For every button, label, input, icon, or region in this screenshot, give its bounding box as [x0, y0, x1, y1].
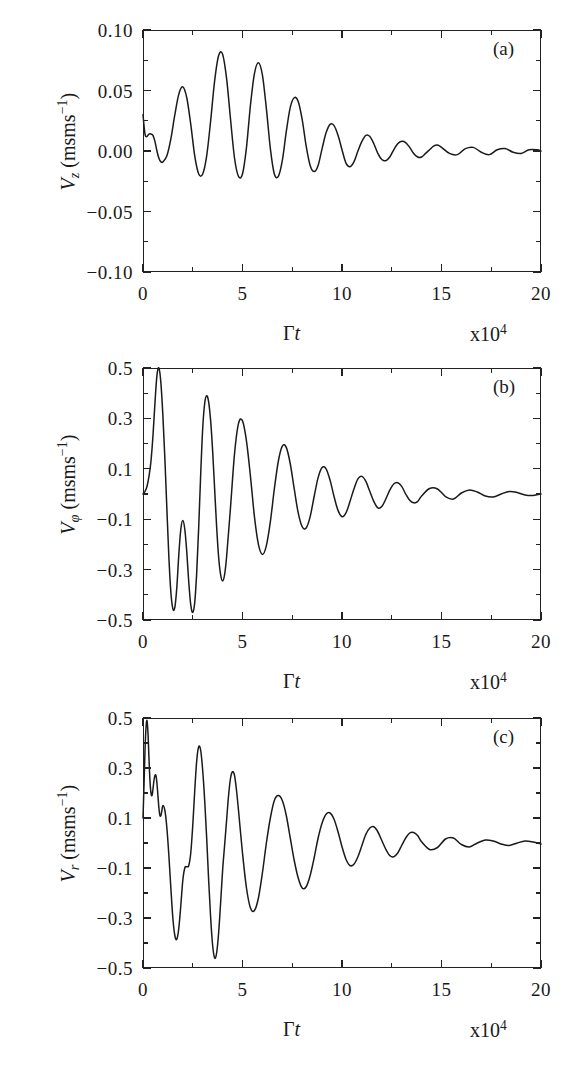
- ytick-major-right-b-2: [533, 468, 541, 469]
- y-symbol-b: V: [57, 522, 79, 534]
- ytick-minor-right-a-2: [536, 181, 541, 182]
- ytick-major-a-4: [143, 271, 151, 272]
- xtick-major-a-0: [142, 264, 143, 272]
- xtick-minor-top-c-2: [391, 718, 392, 723]
- ytick-major-right-c-1: [533, 767, 541, 768]
- xtick-minor-top-c-3: [491, 718, 492, 723]
- ytick-minor-right-b-2: [536, 493, 541, 494]
- data-curve-c: [143, 720, 541, 958]
- ytick-major-right-c-4: [533, 917, 541, 918]
- figure-container: 0.100.050.00−0.05−0.10 05101520 Vz (msms…: [0, 0, 578, 1075]
- ytick-major-b-1: [143, 418, 151, 419]
- y-symbol-a: V: [57, 178, 79, 190]
- xtick-label-b-3: 15: [402, 632, 482, 651]
- xtick-major-top-a-4: [540, 30, 541, 38]
- ytick-minor-right-a-3: [536, 241, 541, 242]
- xtick-minor-a-2: [391, 267, 392, 272]
- y-unit-close-b: ): [57, 435, 79, 442]
- xtick-label-c-4: 20: [501, 980, 578, 999]
- ytick-major-b-2: [143, 468, 151, 469]
- panel-b: 0.50.30.1−0.1−0.3−0.5 05101520 Vφ (msms−…: [0, 338, 578, 698]
- ytick-label-b-5: −0.5: [21, 611, 133, 630]
- xtick-label-a-4: 20: [501, 284, 578, 303]
- gamma-symbol-c: Γ: [283, 1018, 295, 1040]
- x-exponent-power-b: 4: [500, 670, 507, 685]
- ytick-major-right-a-2: [533, 150, 541, 151]
- xtick-major-b-0: [142, 612, 143, 620]
- ytick-major-c-0: [143, 717, 151, 718]
- xtick-major-top-c-4: [540, 718, 541, 726]
- ytick-minor-a-2: [143, 181, 148, 182]
- xtick-major-c-1: [242, 960, 243, 968]
- ytick-minor-right-b-1: [536, 443, 541, 444]
- xtick-major-a-1: [242, 264, 243, 272]
- ytick-major-a-2: [143, 150, 151, 151]
- x-exponent-prefix-c: x10: [470, 1019, 500, 1041]
- xtick-major-c-2: [341, 960, 342, 968]
- xtick-label-b-1: 5: [203, 632, 283, 651]
- xtick-major-a-2: [341, 264, 342, 272]
- data-curve-a: [143, 52, 541, 178]
- ytick-major-a-1: [143, 90, 151, 91]
- panel-c: 0.50.30.1−0.1−0.3−0.5 05101520 Vr (msms−…: [0, 688, 578, 1075]
- xtick-minor-top-c-1: [292, 718, 293, 723]
- ytick-minor-b-2: [143, 493, 148, 494]
- panel-tag-c: (c): [493, 726, 514, 748]
- xtick-major-top-b-1: [242, 368, 243, 376]
- ytick-minor-right-b-3: [536, 544, 541, 545]
- xtick-minor-c-2: [391, 963, 392, 968]
- y-unit-open-a: (ms: [57, 138, 79, 173]
- xtick-minor-b-3: [491, 615, 492, 620]
- ytick-label-c-4: −0.3: [21, 909, 133, 928]
- y-axis-title-b: Vφ (msms−1): [55, 410, 82, 560]
- ytick-major-right-c-2: [533, 817, 541, 818]
- ytick-major-c-2: [143, 817, 151, 818]
- xtick-minor-a-1: [292, 267, 293, 272]
- ytick-label-c-0: 0.5: [21, 709, 133, 728]
- xtick-major-top-c-0: [142, 718, 143, 726]
- panel-tag-a: (a): [493, 38, 514, 60]
- xtick-major-top-a-2: [341, 30, 342, 38]
- ytick-minor-c-3: [143, 892, 148, 893]
- ytick-major-c-1: [143, 767, 151, 768]
- y-subscript-c: r: [66, 865, 82, 871]
- xtick-minor-top-a-1: [292, 30, 293, 35]
- xtick-label-c-1: 5: [203, 980, 283, 999]
- ytick-label-c-5: −0.5: [21, 959, 133, 978]
- ytick-major-c-5: [143, 967, 151, 968]
- xtick-minor-top-a-2: [391, 30, 392, 35]
- xtick-major-top-a-1: [242, 30, 243, 38]
- xtick-major-top-b-3: [441, 368, 442, 376]
- xtick-major-top-a-3: [441, 30, 442, 38]
- panel-a: 0.100.050.00−0.05−0.10 05101520 Vz (msms…: [0, 0, 578, 360]
- ytick-major-a-3: [143, 211, 151, 212]
- curve-svg-a: [0, 0, 578, 360]
- y-axis-title-c: Vr (msms−1): [55, 759, 82, 909]
- xtick-minor-a-0: [192, 267, 193, 272]
- curve-svg-c: [0, 688, 578, 1075]
- xtick-major-b-4: [540, 612, 541, 620]
- xtick-major-top-b-4: [540, 368, 541, 376]
- xtick-minor-c-1: [292, 963, 293, 968]
- ytick-minor-right-b-4: [536, 594, 541, 595]
- xtick-major-top-c-2: [341, 718, 342, 726]
- ytick-major-right-a-3: [533, 211, 541, 212]
- y-symbol-c: V: [57, 870, 79, 882]
- y-subscript-a: z: [66, 173, 82, 179]
- xtick-minor-c-3: [491, 963, 492, 968]
- ytick-major-c-3: [143, 867, 151, 868]
- x-axis-title-c: Γt: [283, 1018, 300, 1041]
- ytick-minor-c-2: [143, 842, 148, 843]
- xtick-label-c-3: 15: [402, 980, 482, 999]
- xtick-label-c-0: 0: [103, 980, 183, 999]
- xtick-minor-c-0: [192, 963, 193, 968]
- ytick-major-b-0: [143, 367, 151, 368]
- ytick-major-right-a-1: [533, 90, 541, 91]
- ytick-minor-c-0: [143, 742, 148, 743]
- xtick-label-b-4: 20: [501, 632, 578, 651]
- xtick-label-b-2: 10: [302, 632, 382, 651]
- y-unit-exponent-c: −1: [55, 791, 70, 806]
- xtick-label-a-1: 5: [203, 284, 283, 303]
- xtick-major-b-3: [441, 612, 442, 620]
- xtick-minor-top-b-2: [391, 368, 392, 373]
